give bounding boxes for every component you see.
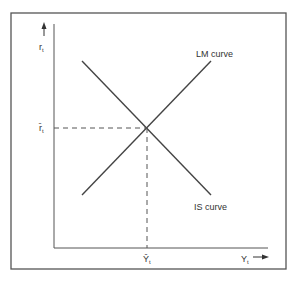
chart-frame [11,13,286,269]
is-curve-label: IS curve [194,202,227,212]
is-lm-chart: rt r̄t Ŷt Yt LM curve IS curve [0,0,293,282]
lm-curve-label: LM curve [196,49,233,59]
y-axis-arrow-icon [42,22,47,36]
y-axis-label: rt [39,42,44,53]
x-axis-arrow-icon [253,255,269,260]
r-equilibrium-label: r̄t [38,123,44,134]
x-axis-label: Yt [241,254,249,265]
y-equilibrium-label: Ŷt [143,254,151,265]
